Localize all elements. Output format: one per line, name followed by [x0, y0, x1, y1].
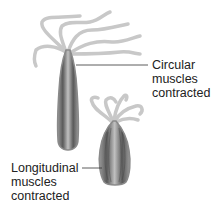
- elongated-hydra-tentacles: [35, 12, 141, 66]
- label-line: Longitudinal: [11, 161, 78, 175]
- label-line: Circular: [152, 58, 210, 72]
- circular-muscles-label: Circular muscles contracted: [152, 58, 210, 100]
- elongated-hydra-body: [58, 50, 79, 150]
- longitudinal-muscles-label: Longitudinal muscles contracted: [11, 161, 78, 203]
- shortened-hydra-body: [99, 121, 130, 185]
- label-line: muscles: [11, 175, 78, 189]
- label-line: muscles: [152, 72, 210, 86]
- label-line: contracted: [152, 86, 210, 100]
- shortened-hydra-tentacles: [91, 95, 142, 122]
- label-line: contracted: [11, 189, 78, 203]
